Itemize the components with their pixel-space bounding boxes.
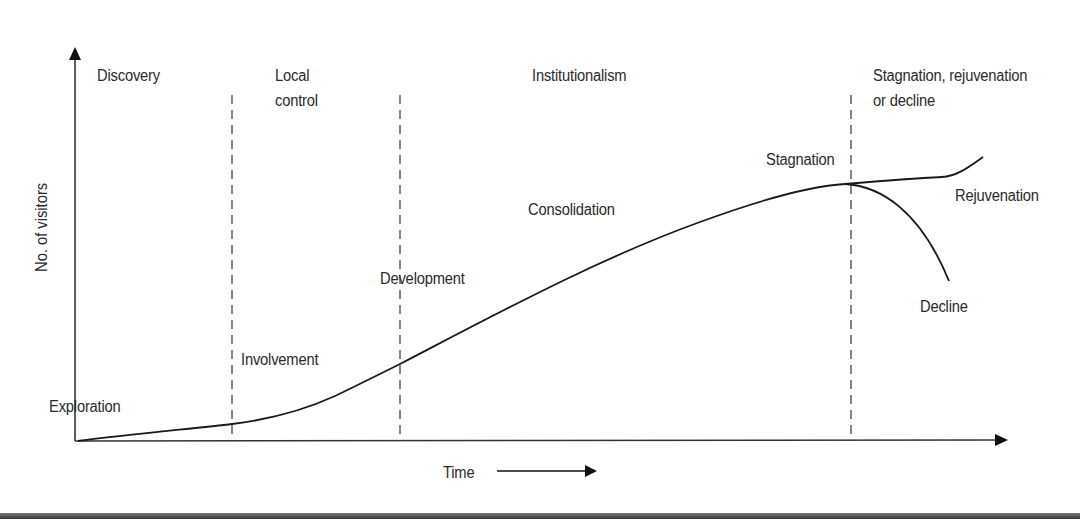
phase-label-discovery: Discovery (97, 65, 160, 87)
stage-label-rejuvenation: Rejuvenation (955, 185, 1039, 207)
x-axis-label: Time (443, 462, 474, 484)
phase-label-stagnation-rejuvenation-decline-line2: or decline (873, 90, 935, 112)
y-axis-arrow-icon (69, 47, 81, 60)
stage-label-development: Development (380, 268, 465, 290)
phase-label-local-control-line2: control (275, 90, 318, 112)
life-cycle-curve (78, 184, 845, 441)
stage-label-consolidation: Consolidation (528, 199, 615, 221)
phase-label-institutionalism: Institutionalism (532, 65, 626, 87)
stage-label-exploration: Exploration (49, 396, 121, 418)
rejuvenation-curve (845, 157, 983, 184)
stage-label-stagnation: Stagnation (766, 149, 835, 171)
decline-curve (845, 184, 949, 281)
bottom-edge-band (0, 513, 1080, 519)
x-axis-arrow-icon (995, 434, 1008, 446)
stage-label-involvement: Involvement (241, 349, 318, 371)
x-axis (75, 440, 996, 441)
y-axis-label: No. of visitors (33, 183, 51, 272)
tourism-life-cycle-diagram: No. of visitors Discovery Local control … (0, 0, 1080, 519)
time-arrow-icon (585, 465, 597, 477)
phase-label-local-control-line1: Local (275, 65, 309, 87)
stage-label-decline: Decline (920, 296, 968, 318)
phase-label-stagnation-rejuvenation-decline-line1: Stagnation, rejuvenation (873, 65, 1027, 87)
